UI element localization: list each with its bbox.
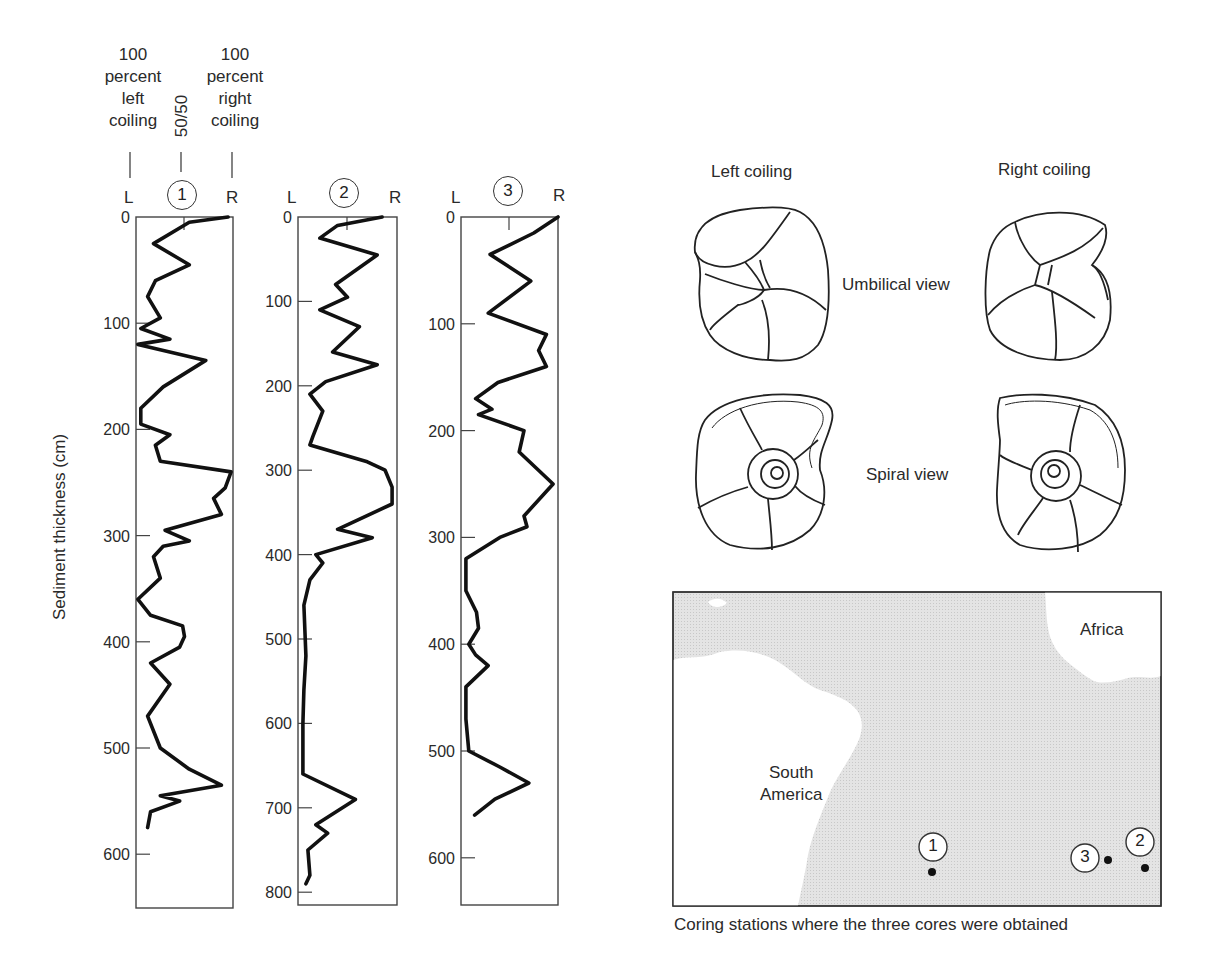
depth-tick-label: 100 <box>265 293 292 310</box>
core-3-coiling-curve <box>466 217 558 815</box>
core-3-left-label: L <box>451 188 460 208</box>
depth-tick-label: 600 <box>428 850 455 867</box>
depth-tick-label: 0 <box>121 209 130 226</box>
left-coiling-spiral-view <box>696 394 833 550</box>
depth-tick-label: 200 <box>103 421 130 438</box>
core-2-number-badge: 2 <box>329 178 359 208</box>
core-1-right-label: R <box>226 188 238 208</box>
depth-tick-label: 200 <box>265 378 292 395</box>
umbilical-view-label: Umbilical view <box>842 275 950 295</box>
depth-tick-label: 700 <box>265 800 292 817</box>
core-2-number: 2 <box>339 183 348 202</box>
depth-tick-label: 600 <box>265 715 292 732</box>
south-america-label: South America <box>760 762 822 806</box>
core-2-coiling-curve <box>303 217 392 884</box>
core-2-right-label: R <box>389 188 401 208</box>
depth-tick-label: 0 <box>283 209 292 226</box>
station-2-dot <box>1141 864 1149 872</box>
depth-tick-label: 300 <box>103 528 130 545</box>
core-diagrams: 0100200300400500600010020030040050060070… <box>0 0 1206 968</box>
left-coiling-umbilical-view <box>695 208 829 361</box>
depth-tick-label: 300 <box>265 462 292 479</box>
left-coiling-title: Left coiling <box>711 162 792 182</box>
station-2-label: 2 <box>1127 831 1153 851</box>
depth-tick-label: 500 <box>103 740 130 757</box>
station-3-dot <box>1104 856 1112 864</box>
depth-tick-label: 400 <box>103 634 130 651</box>
africa-label: Africa <box>1080 620 1123 640</box>
map-caption: Coring stations where the three cores we… <box>674 915 1068 935</box>
station-1-dot <box>928 868 936 876</box>
right-coiling-title: Right coiling <box>998 160 1091 180</box>
depth-tick-label: 500 <box>265 631 292 648</box>
core-1-frame <box>136 217 233 908</box>
south-america-line-2: America <box>760 784 822 806</box>
spiral-view-label: Spiral view <box>866 465 948 485</box>
station-1-label: 1 <box>920 836 946 856</box>
depth-tick-label: 100 <box>103 315 130 332</box>
core-1-number: 1 <box>177 185 186 204</box>
core-1-number-badge: 1 <box>167 180 197 210</box>
depth-tick-label: 400 <box>265 547 292 564</box>
core-1-coiling-curve <box>138 217 231 828</box>
depth-tick-label: 100 <box>428 316 455 333</box>
south-america-line-1: South <box>760 762 822 784</box>
right-coiling-spiral-view <box>997 395 1125 552</box>
core-2-left-label: L <box>287 188 296 208</box>
core-3-number: 3 <box>503 181 512 200</box>
core-3-number-badge: 3 <box>493 176 523 206</box>
core-1-left-label: L <box>124 188 133 208</box>
depth-tick-label: 600 <box>103 846 130 863</box>
depth-tick-label: 300 <box>428 529 455 546</box>
depth-tick-label: 500 <box>428 743 455 760</box>
station-3-label: 3 <box>1072 847 1098 867</box>
depth-tick-label: 400 <box>428 636 455 653</box>
core-3-right-label: R <box>553 186 565 206</box>
right-coiling-umbilical-view <box>985 213 1110 360</box>
depth-tick-label: 200 <box>428 423 455 440</box>
depth-tick-label: 0 <box>446 209 455 226</box>
depth-tick-label: 800 <box>265 884 292 901</box>
coiling-curves <box>138 217 558 884</box>
